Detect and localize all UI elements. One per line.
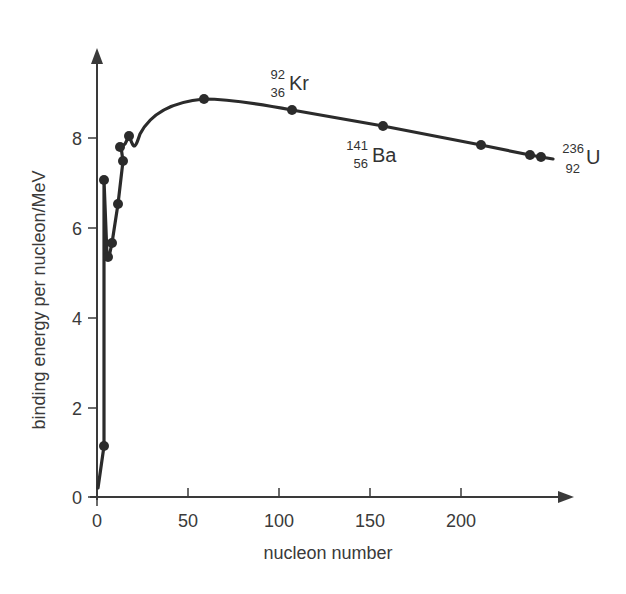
u-symbol: U [586,146,600,168]
x-tick-labels: 0 50 100 150 200 [92,511,476,531]
annotation-u: 236 92 U [562,141,600,176]
x-tick-150: 150 [355,511,385,531]
y-tick-labels: 0 2 4 6 8 [72,129,82,508]
x-tick-50: 50 [178,511,198,531]
data-point [103,252,113,262]
y-ticks [88,138,97,497]
data-point [118,156,128,166]
annotation-kr: 92 36 Kr [271,67,310,100]
binding-energy-chart: 0 2 4 6 8 0 50 100 150 200 nucleon numbe… [0,0,626,594]
x-axis-arrow-icon [558,491,574,503]
data-point [115,142,125,152]
y-tick-6: 6 [72,219,82,239]
ba-atomic-number: 56 [354,156,368,171]
ba-symbol: Ba [372,144,397,166]
data-point [99,175,109,185]
data-point [287,105,297,115]
data-point [378,121,388,131]
kr-mass-number: 92 [271,67,285,82]
x-tick-200: 200 [446,511,476,531]
y-tick-2: 2 [72,399,82,419]
u-atomic-number: 92 [566,161,580,176]
x-tick-100: 100 [264,511,294,531]
binding-energy-curve [98,99,553,488]
data-point [113,199,123,209]
data-point [99,441,109,451]
x-tick-0: 0 [92,511,102,531]
ba-mass-number: 141 [346,138,368,153]
data-point [124,131,134,141]
data-point [476,140,486,150]
annotation-ba: 141 56 Ba [346,138,397,171]
kr-atomic-number: 36 [271,85,285,100]
data-point [536,152,546,162]
kr-symbol: Kr [289,72,309,94]
y-tick-0: 0 [72,488,82,508]
y-tick-4: 4 [72,309,82,329]
y-axis-arrow-icon [91,48,103,64]
data-point [107,238,117,248]
u-mass-number: 236 [562,141,584,156]
y-tick-8: 8 [72,129,82,149]
data-point [525,150,535,160]
data-points [99,94,546,451]
x-axis-label: nucleon number [263,543,392,563]
data-point [199,94,209,104]
y-axis-label: binding energy per nucleon/MeV [29,170,49,429]
